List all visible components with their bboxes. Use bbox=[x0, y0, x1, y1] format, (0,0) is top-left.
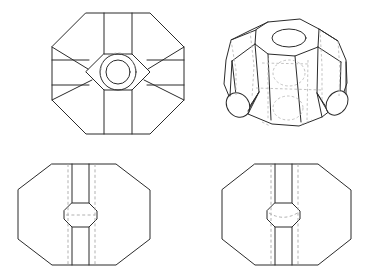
pictorial-top-face bbox=[255, 19, 319, 56]
view-pictorial-view bbox=[221, 19, 352, 126]
pictorial-hidden-bore-upper bbox=[273, 60, 305, 86]
pictorial-hidden-left-rib-a bbox=[250, 31, 254, 98]
top-view-outer-octagon bbox=[52, 13, 184, 134]
pictorial-front-edge-left bbox=[268, 54, 271, 120]
view-side-view bbox=[222, 164, 351, 265]
pictorial-edge-left-upper bbox=[231, 30, 256, 40]
pictorial-hidden-right-rib-b bbox=[320, 30, 322, 100]
drawing-canvas bbox=[0, 0, 367, 279]
side-view-center-boss bbox=[267, 203, 300, 227]
view-front-view bbox=[18, 164, 150, 265]
view-top-view bbox=[52, 13, 184, 134]
pictorial-hidden-slot-crossbar bbox=[256, 63, 322, 90]
engineering-drawing-sheet: Octagonal Hub Part — Multiview Engineeri… bbox=[0, 0, 367, 279]
pictorial-right-lobe bbox=[321, 87, 352, 120]
pictorial-left-lobe-edge-a bbox=[230, 61, 232, 96]
pictorial-edge-right-upper bbox=[319, 29, 338, 41]
pictorial-left-lobe bbox=[221, 88, 254, 122]
pictorial-hidden-slot-outline bbox=[268, 58, 308, 120]
